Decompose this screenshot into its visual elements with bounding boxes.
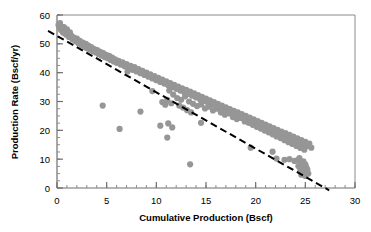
data-point — [182, 93, 188, 99]
y-axis-tick-labels: 0102030405060 — [39, 10, 50, 194]
data-point — [301, 147, 307, 153]
y-axis-title: Production Rate (Bscf/yr) — [9, 45, 20, 160]
x-tick-label: 5 — [104, 195, 109, 206]
x-axis-title: Cumulative Production (Bscf) — [139, 212, 273, 223]
data-point — [157, 123, 163, 129]
x-tick-label: 10 — [151, 195, 162, 206]
x-axis-tick-labels: 051015202530 — [54, 195, 360, 206]
data-point — [100, 102, 106, 108]
y-tick-label: 0 — [45, 183, 50, 194]
data-points — [55, 20, 314, 179]
y-tick-label: 10 — [39, 154, 50, 165]
scatter-plot: 051015202530 0102030405060 Cumulative Pr… — [0, 0, 371, 232]
y-tick-label: 30 — [39, 96, 50, 107]
data-point — [116, 126, 122, 132]
data-point — [169, 124, 175, 130]
x-tick-label: 25 — [300, 195, 311, 206]
data-point — [187, 161, 193, 167]
data-point — [137, 108, 143, 114]
data-point — [308, 145, 314, 151]
y-tick-label: 60 — [39, 10, 50, 21]
chart-figure: 051015202530 0102030405060 Cumulative Pr… — [0, 0, 371, 232]
x-tick-label: 15 — [201, 195, 212, 206]
data-point — [291, 158, 297, 164]
data-point — [198, 120, 204, 126]
x-tick-label: 30 — [350, 195, 361, 206]
x-tick-label: 20 — [250, 195, 261, 206]
data-point — [269, 149, 275, 155]
x-tick-label: 0 — [54, 195, 59, 206]
data-point — [164, 134, 170, 140]
y-tick-label: 50 — [39, 38, 50, 49]
y-tick-label: 40 — [39, 67, 50, 78]
y-tick-label: 20 — [39, 125, 50, 136]
